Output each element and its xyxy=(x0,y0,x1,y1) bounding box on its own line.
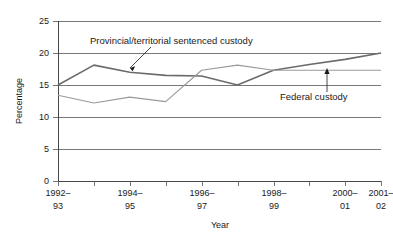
y-tick-label-5: 5 xyxy=(44,144,49,154)
y-tick-label-0: 0 xyxy=(44,176,49,186)
x-tick-label-1998-99-bottom: 99 xyxy=(269,201,279,211)
line-chart: 25 20 15 10 5 0 Percentage 1992– 93 199 xyxy=(0,0,393,238)
x-tick-label-2001-02-bottom: 02 xyxy=(376,201,386,211)
x-tick-label-1994-95-bottom: 95 xyxy=(125,201,135,211)
federal-custody-annotation-label: Federal custody xyxy=(280,91,348,102)
x-tick-label-1992-93-top: 1992– xyxy=(45,188,70,198)
y-tick-label-10: 10 xyxy=(39,112,49,122)
y-tick-label-25: 25 xyxy=(39,16,49,26)
x-tick-label-1994-95-top: 1994– xyxy=(117,188,142,198)
x-tick-label-2001-02-top: 2001– xyxy=(368,188,393,198)
x-tick-label-2000-01-bottom: 01 xyxy=(340,201,350,211)
chart-canvas: 25 20 15 10 5 0 Percentage 1992– 93 199 xyxy=(0,0,393,238)
y-tick-label-15: 15 xyxy=(39,80,49,90)
provincial-territorial-annotation-label: Provincial/territorial sentenced custody xyxy=(90,35,253,46)
x-axis-title: Year xyxy=(211,220,229,230)
x-tick-label-1996-97-top: 1996– xyxy=(189,188,214,198)
y-axis-title: Percentage xyxy=(14,78,24,124)
x-tick-label-1992-93-bottom: 93 xyxy=(53,201,63,211)
x-tick-label-1996-97-bottom: 97 xyxy=(197,201,207,211)
x-tick-label-2000-01-top: 2000– xyxy=(332,188,357,198)
x-tick-label-1998-99-top: 1998– xyxy=(261,188,286,198)
y-tick-label-20: 20 xyxy=(39,48,49,58)
